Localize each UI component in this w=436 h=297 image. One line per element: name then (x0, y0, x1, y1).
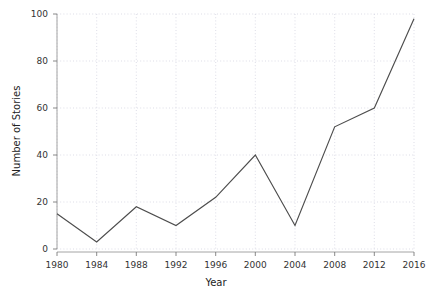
x-tick-label-1992: 1992 (165, 260, 188, 270)
y-tick-label-40: 40 (37, 150, 49, 160)
x-tick-labels: 1980 1984 1988 1992 1996 2000 2004 2008 … (46, 260, 426, 270)
y-tick-labels: 0 20 40 60 80 100 (31, 9, 48, 254)
x-tick-label-1996: 1996 (204, 260, 227, 270)
y-axis-title: Number of Stories (11, 86, 22, 177)
chart-figure: 0 20 40 60 80 100 1980 1984 1988 1992 (0, 0, 436, 297)
x-tick-label-2012: 2012 (363, 260, 386, 270)
y-tick-label-60: 60 (37, 103, 49, 113)
x-tick-label-1988: 1988 (125, 260, 148, 270)
x-tick-label-1980: 1980 (46, 260, 69, 270)
y-tick-label-0: 0 (42, 244, 48, 254)
x-tick-label-1984: 1984 (85, 260, 108, 270)
y-tick-label-20: 20 (37, 197, 49, 207)
y-tick-label-100: 100 (31, 9, 48, 19)
y-tick-marks (53, 14, 57, 249)
y-tick-label-80: 80 (37, 56, 49, 66)
line-chart: 0 20 40 60 80 100 1980 1984 1988 1992 (0, 0, 436, 297)
x-tick-label-2004: 2004 (284, 260, 307, 270)
x-tick-label-2008: 2008 (323, 260, 346, 270)
x-tick-marks (57, 252, 414, 256)
x-tick-label-2000: 2000 (244, 260, 267, 270)
x-axis-title: Year (204, 277, 227, 288)
x-tick-label-2016: 2016 (403, 260, 426, 270)
plot-background (57, 14, 414, 249)
